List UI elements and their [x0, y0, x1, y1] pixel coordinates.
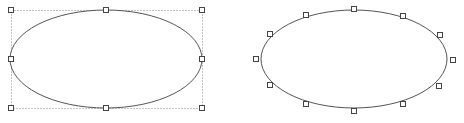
resize-handle[interactable] — [9, 57, 14, 62]
resize-handle[interactable] — [200, 106, 205, 111]
resize-handle[interactable] — [438, 33, 443, 38]
resize-handle[interactable] — [268, 32, 273, 37]
ellipse-bbox-selection[interactable] — [9, 8, 205, 111]
resize-handle[interactable] — [401, 102, 406, 107]
resize-handle[interactable] — [254, 57, 259, 62]
resize-handle[interactable] — [304, 13, 309, 18]
drawing-canvas[interactable] — [0, 0, 464, 123]
resize-handle[interactable] — [268, 83, 273, 88]
resize-handle[interactable] — [352, 7, 357, 12]
resize-handle[interactable] — [352, 109, 357, 114]
resize-handle[interactable] — [9, 8, 14, 13]
ellipse-point-edit[interactable] — [254, 7, 456, 114]
resize-handle[interactable] — [401, 14, 406, 19]
resize-handle[interactable] — [304, 102, 309, 107]
resize-handle[interactable] — [9, 106, 14, 111]
drawing-surface[interactable] — [0, 0, 464, 123]
ellipse-shape[interactable] — [10, 10, 202, 108]
resize-handle[interactable] — [200, 57, 205, 62]
resize-handle[interactable] — [104, 8, 109, 13]
resize-handle[interactable] — [451, 58, 456, 63]
resize-handle[interactable] — [104, 106, 109, 111]
ellipse-shape[interactable] — [261, 10, 447, 108]
resize-handle[interactable] — [437, 84, 442, 89]
resize-handle[interactable] — [200, 8, 205, 13]
